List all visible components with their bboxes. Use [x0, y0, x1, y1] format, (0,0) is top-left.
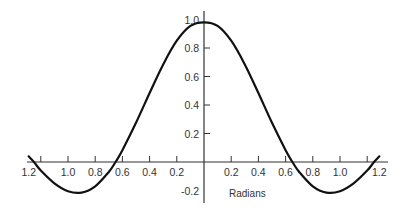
- y-tick-label: 0.2: [184, 128, 199, 140]
- y-ticks: 1.00.80.60.40.2-0.2: [181, 14, 210, 197]
- x-tick-label: 0.2: [224, 166, 239, 178]
- x-tick-label: 0.8: [88, 166, 103, 178]
- x-tick-label: 1.2: [372, 166, 387, 178]
- x-tick-label: 0.4: [142, 166, 157, 178]
- x-tick-label: 0.8: [305, 166, 320, 178]
- y-tick-label: 0.4: [184, 99, 199, 111]
- y-tick-label: 0.8: [184, 42, 199, 54]
- x-axis-title: Radians: [229, 188, 266, 199]
- y-tick-label: 0.6: [184, 71, 199, 83]
- x-tick-label: 1.2: [21, 166, 36, 178]
- x-tick-label: 0.4: [251, 166, 266, 178]
- x-tick-label: 0.6: [278, 166, 293, 178]
- x-tick-label: 1.0: [333, 166, 348, 178]
- x-tick-label: 0.6: [115, 166, 130, 178]
- y-tick-label: -0.2: [181, 185, 199, 197]
- x-tick-label: 0.2: [169, 166, 184, 178]
- chart: 1.21.00.80.60.40.20.20.40.60.81.01.2 1.0…: [0, 0, 406, 213]
- x-tick-label: 1.0: [61, 166, 76, 178]
